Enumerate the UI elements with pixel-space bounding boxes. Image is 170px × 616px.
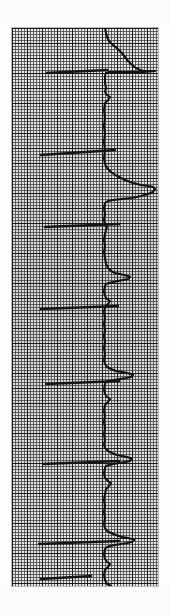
ecg-graph-paper <box>12 28 158 586</box>
ecg-strip-image: ECG rhythm strip on graph paper <box>0 0 170 616</box>
ecg-marker-lines <box>38 70 120 579</box>
lead-marker-line-8 <box>40 576 92 579</box>
lead-marker-line-7 <box>38 541 120 544</box>
scan-margin-bottom <box>0 586 170 616</box>
scan-margin-top <box>0 0 170 28</box>
lead-marker-line-6 <box>42 461 120 464</box>
ecg-trace-svg <box>12 28 158 586</box>
ecg-trace-layer <box>12 28 158 586</box>
lead-marker-line-1 <box>46 70 108 73</box>
lead-marker-line-4 <box>40 306 119 309</box>
lead-marker-line-3 <box>44 224 120 227</box>
